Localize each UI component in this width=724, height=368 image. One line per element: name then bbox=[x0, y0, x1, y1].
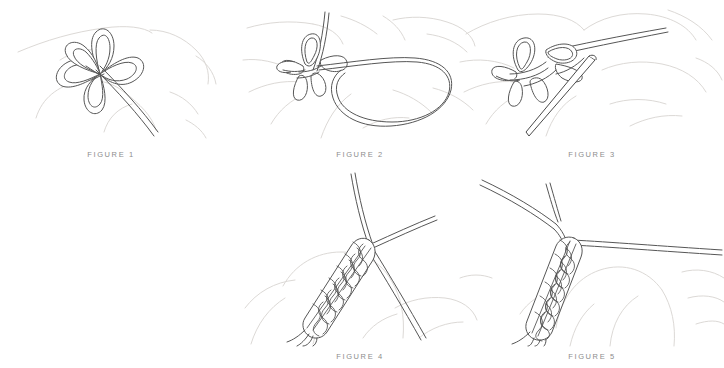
figure-3-illustration bbox=[460, 0, 724, 140]
horizontal-cord-right bbox=[572, 240, 722, 255]
figure-3-caption: FIGURE 3 bbox=[460, 151, 724, 159]
hand-outline-icon bbox=[243, 16, 475, 138]
figure-1-illustration bbox=[0, 0, 222, 140]
figure-panel-1 bbox=[0, 0, 222, 140]
figure-5-caption: FIGURE 5 bbox=[460, 353, 724, 361]
figure-5-illustration bbox=[460, 168, 724, 346]
flower-knot-cord bbox=[56, 29, 143, 114]
hand-outline-icon bbox=[460, 267, 724, 346]
figure-4-caption: FIGURE 4 bbox=[243, 353, 477, 361]
figure-panel-3 bbox=[460, 0, 724, 140]
braided-body bbox=[512, 237, 582, 346]
figure-4-illustration bbox=[243, 168, 477, 346]
braided-body bbox=[287, 238, 375, 346]
figure-panel-4 bbox=[243, 168, 477, 346]
short-tail-upper-right bbox=[371, 216, 437, 248]
diagram-sheet: FIGURE 1 bbox=[0, 0, 724, 368]
figure-panel-5 bbox=[460, 168, 724, 346]
standing-cord-upper bbox=[351, 173, 373, 246]
figure-2-illustration bbox=[243, 0, 477, 140]
knot-cluster bbox=[492, 38, 582, 106]
figure-panel-2 bbox=[243, 0, 477, 140]
large-loop-cord bbox=[317, 58, 452, 127]
figure-1-caption: FIGURE 1 bbox=[0, 151, 222, 159]
figure-2-caption: FIGURE 2 bbox=[243, 151, 477, 159]
short-vertical-tail bbox=[546, 183, 561, 222]
